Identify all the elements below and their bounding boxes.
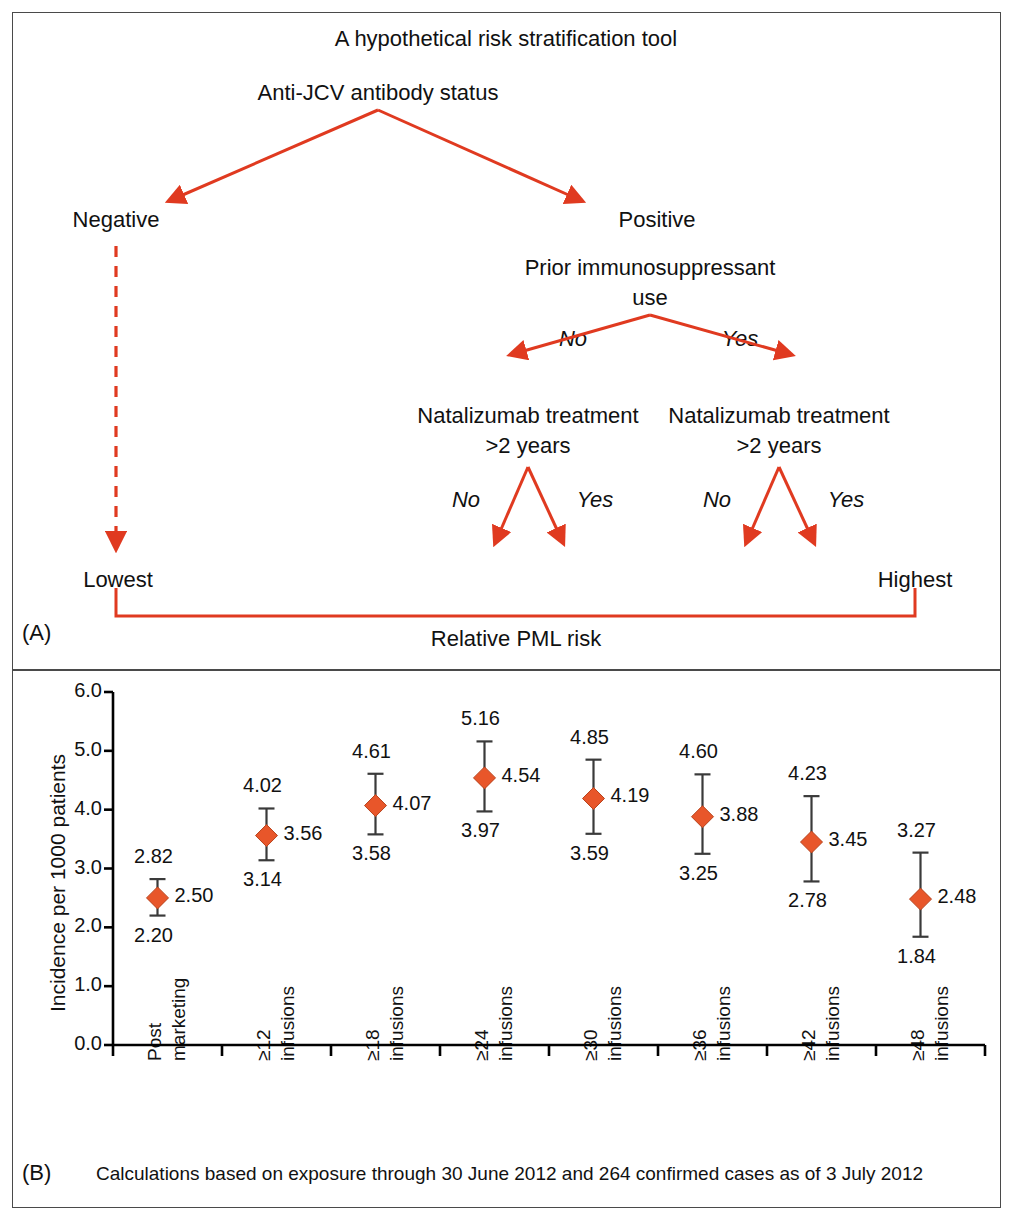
node-natalizumab-right-line2: >2 years	[737, 433, 822, 459]
upper-bound-label: 5.16	[461, 707, 500, 730]
upper-bound-label: 4.02	[243, 774, 282, 797]
lower-bound-label: 1.84	[897, 945, 936, 968]
x-tick-label: ≥48	[907, 1029, 929, 1061]
data-point-value-label: 3.56	[284, 822, 323, 845]
upper-bound-label: 4.61	[352, 740, 391, 763]
x-tick-label: infusions	[604, 986, 626, 1061]
x-tick-label: infusions	[822, 986, 844, 1061]
x-tick-label: ≥18	[362, 1029, 384, 1061]
lower-bound-label: 3.25	[679, 862, 718, 885]
data-point-value-label: 3.88	[720, 803, 759, 826]
x-tick-label: infusions	[386, 986, 408, 1061]
data-point-value-label: 2.50	[175, 884, 214, 907]
x-tick-label: ≥12	[253, 1029, 275, 1061]
edge-label-nat-right-no: No	[703, 487, 731, 513]
node-natalizumab-left-line1: Natalizumab treatment	[417, 403, 638, 429]
y-tick-label: 3.0	[20, 856, 102, 879]
x-tick-label: infusions	[495, 986, 517, 1061]
risk-lowest-label: Lowest	[83, 567, 153, 593]
y-tick-label: 1.0	[20, 973, 102, 996]
branch-negative-label: Negative	[73, 207, 160, 233]
y-tick-label: 5.0	[20, 738, 102, 761]
lower-bound-label: 2.20	[134, 924, 173, 947]
edge-label-nat-left-no: No	[452, 487, 480, 513]
y-tick-label: 2.0	[20, 914, 102, 937]
node-natalizumab-right-line1: Natalizumab treatment	[668, 403, 889, 429]
lower-bound-label: 2.78	[788, 889, 827, 912]
node-root-label: Anti-JCV antibody status	[258, 80, 499, 106]
x-tick-label: ≥42	[798, 1029, 820, 1061]
data-point-value-label: 4.54	[502, 764, 541, 787]
data-point-value-label: 2.48	[938, 885, 977, 908]
x-tick-label: infusions	[931, 986, 953, 1061]
edge-label-nat-right-yes: Yes	[828, 487, 865, 513]
relative-risk-scale-label: Relative PML risk	[431, 626, 601, 652]
x-tick-label: infusions	[277, 986, 299, 1061]
y-tick-label: 6.0	[20, 679, 102, 702]
data-point-value-label: 4.07	[393, 792, 432, 815]
lower-bound-label: 3.14	[243, 868, 282, 891]
x-tick-label: infusions	[713, 986, 735, 1061]
node-immunosuppressant-line1: Prior immunosuppressant	[525, 255, 776, 281]
lower-bound-label: 3.59	[570, 842, 609, 865]
data-point-value-label: 4.19	[611, 784, 650, 807]
risk-highest-label: Highest	[878, 567, 953, 593]
upper-bound-label: 4.60	[679, 740, 718, 763]
figure-page: A hypothetical risk stratification tool …	[0, 0, 1013, 1225]
y-tick-label: 4.0	[20, 797, 102, 820]
edge-label-immuno-yes: Yes	[722, 326, 759, 352]
lower-bound-label: 3.58	[352, 842, 391, 865]
panel-a-frame	[12, 12, 1001, 670]
upper-bound-label: 4.85	[570, 726, 609, 749]
branch-positive-label: Positive	[618, 207, 695, 233]
edge-label-immuno-no: No	[559, 326, 587, 352]
y-tick-label: 0.0	[20, 1032, 102, 1055]
x-tick-label: Post	[144, 1023, 166, 1061]
data-point-value-label: 3.45	[829, 828, 868, 851]
x-tick-label: ≥24	[471, 1029, 493, 1061]
panel-b-caption: Calculations based on exposure through 3…	[96, 1163, 923, 1185]
edge-label-nat-left-yes: Yes	[577, 487, 614, 513]
panel-a-title: A hypothetical risk stratification tool	[335, 26, 677, 52]
x-tick-label: ≥36	[689, 1029, 711, 1061]
upper-bound-label: 4.23	[788, 762, 827, 785]
node-immunosuppressant-line2: use	[632, 285, 667, 311]
x-tick-label: marketing	[168, 978, 190, 1061]
node-natalizumab-left-line2: >2 years	[486, 433, 571, 459]
panel-b-letter: (B)	[22, 1160, 51, 1186]
x-tick-label: ≥30	[580, 1029, 602, 1061]
lower-bound-label: 3.97	[461, 819, 500, 842]
panel-a-letter: (A)	[22, 620, 51, 646]
upper-bound-label: 3.27	[897, 819, 936, 842]
upper-bound-label: 2.82	[134, 845, 173, 868]
